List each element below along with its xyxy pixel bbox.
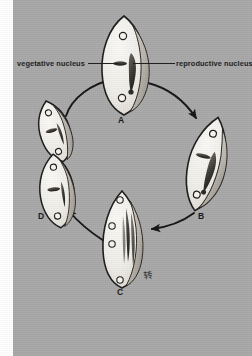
pore — [109, 241, 115, 247]
arrow-b-to-c — [152, 213, 194, 229]
pore — [54, 213, 61, 220]
arrow-a-to-b — [148, 83, 196, 118]
cell-a — [102, 16, 149, 115]
cell-d — [32, 97, 79, 230]
callout-label-vegetative-nucleus: vegetative nucleus — [17, 59, 85, 68]
pollen-cycle-diagram — [0, 0, 252, 356]
stage-label-d: D — [38, 211, 44, 221]
pore — [50, 164, 57, 171]
stage-label-c: C — [117, 287, 123, 297]
pore — [118, 94, 125, 101]
pore — [119, 32, 126, 39]
pore — [109, 223, 115, 229]
figure-page: vegetative nucleus reproductive nucleus … — [0, 0, 252, 356]
cell-c — [103, 191, 143, 288]
annotation-mark: 转 — [142, 267, 153, 281]
pore — [117, 197, 123, 203]
stage-label-b: B — [198, 211, 204, 221]
stage-label-a: A — [118, 115, 124, 125]
cell-b — [177, 113, 237, 215]
callout-label-reproductive-nucleus: reproductive nucleus — [176, 59, 252, 68]
pore — [117, 277, 123, 283]
